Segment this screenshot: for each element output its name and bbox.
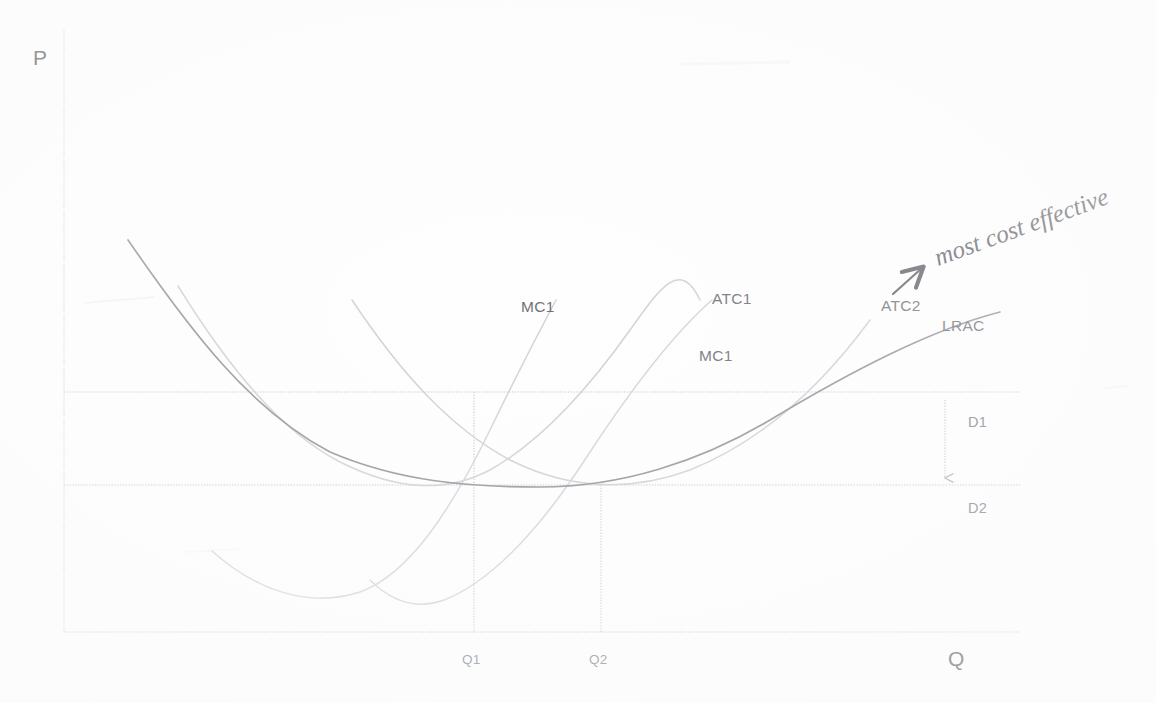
curve-label-mc1-left: MC1 — [521, 298, 555, 315]
scan-artifacts — [84, 62, 1128, 552]
curve-label-atc1: ATC1 — [712, 290, 752, 307]
curve-label-atc2: ATC2 — [881, 297, 921, 314]
handwritten-note: most cost effective — [930, 183, 1111, 271]
handwritten-arrow-icon — [893, 268, 922, 294]
reference-lines — [64, 392, 1020, 632]
y-axis-label: P — [33, 46, 47, 69]
tick-label-q1: Q1 — [462, 652, 481, 667]
x-axis-label: Q — [948, 647, 964, 670]
curve-label-mc1-right: MC1 — [699, 347, 733, 364]
handwritten-annotation: most cost effective — [893, 183, 1112, 294]
shift-label-d2: D2 — [968, 500, 987, 516]
curve-atc1 — [178, 280, 700, 486]
curve-label-lrac: LRAC — [942, 317, 985, 334]
curve-lrac — [128, 240, 1000, 487]
curve-mc2 — [370, 300, 712, 604]
scanned-page: most cost effective P Q MC1 ATC1 MC1 ATC… — [0, 0, 1156, 703]
shift-label-d1: D1 — [968, 414, 987, 430]
lrac-cost-curves-figure: most cost effective P Q MC1 ATC1 MC1 ATC… — [0, 0, 1156, 703]
cost-curves — [128, 240, 1000, 604]
tick-label-q2: Q2 — [589, 652, 608, 667]
